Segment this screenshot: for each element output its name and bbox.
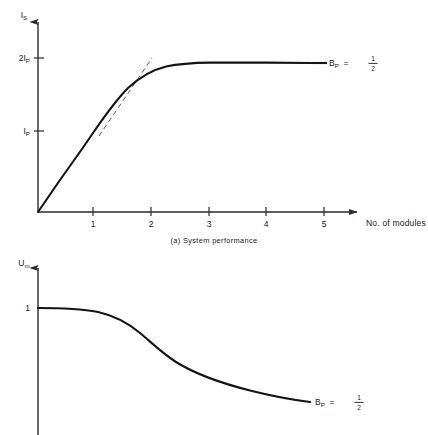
panel-b-fraction-denominator: 2	[357, 404, 361, 411]
panel-b-fraction-numerator: 1	[357, 394, 361, 401]
panel-a-xtick-2-label: 2	[149, 219, 154, 229]
panel-b-ytick-one-label: 1	[25, 303, 30, 313]
panel-b-legend-label: BP =	[315, 397, 335, 408]
two-panel-performance-figure: IS 2IP IP 1 2 3 4 5 No. of modules	[0, 0, 428, 435]
panel-a-xtick-1-label: 1	[91, 219, 96, 229]
panel-a-xtick-4-label: 4	[264, 219, 269, 229]
panel-a-fraction-numerator: 1	[371, 55, 375, 62]
panel-a-xtick-5-label: 5	[322, 219, 327, 229]
figure-background	[0, 0, 428, 435]
panel-a-xtick-3-label: 3	[207, 219, 212, 229]
figure-container: IS 2IP IP 1 2 3 4 5 No. of modules	[0, 0, 428, 435]
panel-a-legend-label: BP =	[329, 58, 349, 69]
panel-a-x-axis-title: No. of modules	[366, 218, 426, 228]
panel-a-caption: (a) System performance	[171, 236, 258, 245]
panel-a-fraction-denominator: 2	[371, 65, 375, 72]
